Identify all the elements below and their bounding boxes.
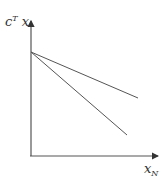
- shallow-line: [31, 52, 138, 98]
- line-diagram: cT x xN: [0, 0, 167, 181]
- x-axis-label: xN: [144, 161, 159, 178]
- y-axis-label: cT x: [5, 14, 30, 29]
- steep-line: [31, 52, 127, 135]
